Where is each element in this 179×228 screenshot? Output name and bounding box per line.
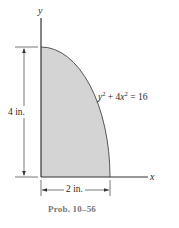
height-dimension-label: 4 in. xyxy=(8,106,25,118)
x-axis-label: x xyxy=(150,171,154,182)
width-arrow-right xyxy=(104,188,109,192)
shaded-region xyxy=(41,47,110,177)
figure-canvas: y x 4 in. 2 in. y2 + 4x2 = 16 Prob. 10–5… xyxy=(0,0,179,228)
y-axis-label: y xyxy=(38,5,42,16)
eq-rhs: = 16 xyxy=(128,92,148,102)
diagram-graphics xyxy=(0,0,179,228)
curve-equation: y2 + 4x2 = 16 xyxy=(98,92,147,102)
eq-plus-coef: + 4 xyxy=(105,92,120,102)
width-dimension-label: 2 in. xyxy=(64,184,85,194)
height-arrow-bottom xyxy=(22,171,26,176)
width-arrow-left xyxy=(42,188,47,192)
height-arrow-top xyxy=(22,48,26,53)
figure-caption: Prob. 10–56 xyxy=(48,204,96,214)
